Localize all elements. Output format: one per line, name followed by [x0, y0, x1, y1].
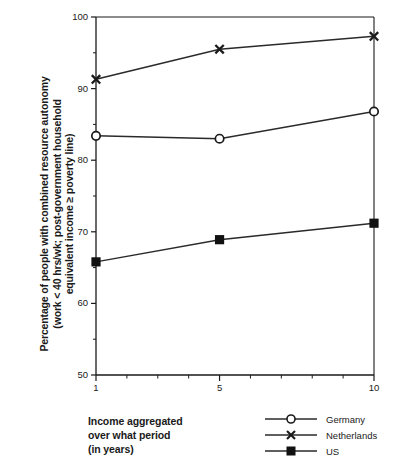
legend-item-us: US — [264, 443, 394, 459]
x-axis-caption: Income aggregated over what period (in y… — [88, 414, 248, 456]
series-us — [91, 219, 378, 267]
legend-label-netherlands: Netherlands — [326, 430, 377, 441]
legend-item-germany: Germany — [264, 411, 394, 427]
chart-figure: Percentage of people with combined resou… — [0, 0, 395, 465]
legend-item-netherlands: Netherlands — [264, 427, 394, 443]
marker-open-circle-icon — [215, 135, 223, 143]
chart-legend: Germany Netherlands US — [264, 411, 394, 459]
series-line — [96, 36, 374, 79]
legend-key-open-circle-icon — [264, 411, 318, 427]
x-axis-caption-line-3: (in years) — [88, 442, 248, 456]
legend-key-filled-square-icon — [264, 443, 318, 459]
series-germany — [92, 107, 378, 143]
series-line — [96, 112, 374, 139]
marker-open-circle-icon — [92, 132, 100, 140]
marker-filled-square-icon — [369, 219, 378, 228]
x-axis-caption-line-1: Income aggregated — [88, 414, 248, 428]
legend-label-germany: Germany — [326, 414, 365, 425]
series-line — [96, 223, 374, 262]
legend-key-cross-x-icon — [264, 427, 318, 443]
x-axis-caption-line-2: over what period — [88, 428, 248, 442]
series-netherlands — [92, 32, 378, 83]
legend-label-us: US — [326, 446, 339, 457]
marker-filled-square-icon — [91, 257, 100, 266]
plot-area — [0, 0, 395, 465]
marker-open-circle-icon — [370, 107, 378, 115]
marker-filled-square-icon — [215, 235, 224, 244]
